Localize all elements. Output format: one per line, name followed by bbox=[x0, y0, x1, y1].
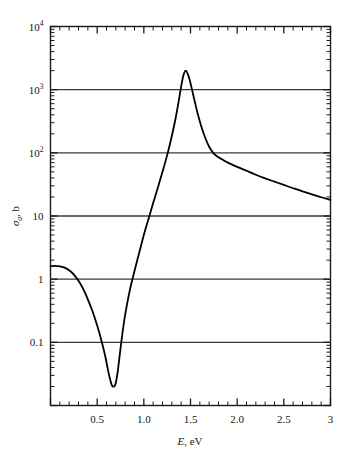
y-tick-label-mantissa: 10 bbox=[33, 210, 45, 222]
x-tick-label: 1.0 bbox=[137, 413, 151, 425]
cross-section-chart: 1041031021010.1 0.51.01.52.02.53 σa, b E… bbox=[0, 0, 344, 455]
svg-text:E, eV: E, eV bbox=[176, 435, 202, 447]
y-tick-label-mantissa: 10 bbox=[29, 21, 41, 33]
x-tick-label: 0.5 bbox=[90, 413, 104, 425]
y-tick-label-mantissa: 0.1 bbox=[30, 336, 44, 348]
y-tick-label-mantissa: 10 bbox=[29, 84, 41, 96]
y-tick-label-mantissa: 10 bbox=[29, 147, 41, 159]
x-axis-title-rest: , eV bbox=[184, 435, 202, 447]
x-tick-label: 3 bbox=[328, 413, 334, 425]
x-axis-title: E, eV bbox=[176, 435, 202, 447]
y-tick-label: 0.1 bbox=[30, 336, 44, 348]
y-tick-label-exponent: 2 bbox=[40, 145, 44, 154]
y-tick-label-exponent: 3 bbox=[40, 82, 44, 91]
x-tick-label: 2.5 bbox=[277, 413, 291, 425]
y-tick-label: 1 bbox=[38, 273, 44, 285]
y-tick-label-exponent: 4 bbox=[40, 19, 44, 28]
x-tick-label: 2.0 bbox=[230, 413, 244, 425]
y-tick-label: 10 bbox=[33, 210, 45, 222]
y-axis-title-rest: , b bbox=[9, 205, 21, 217]
x-tick-label: 1.5 bbox=[184, 413, 198, 425]
y-tick-label-mantissa: 1 bbox=[38, 273, 44, 285]
